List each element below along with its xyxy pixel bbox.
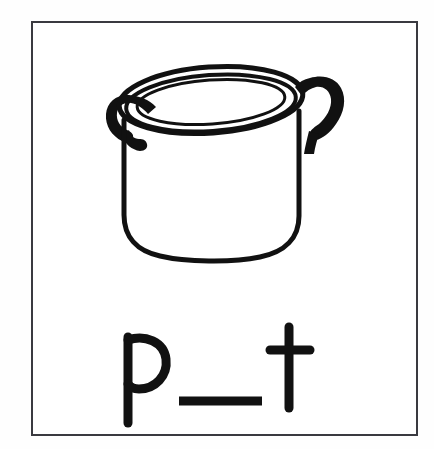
- card-frame: p ___ t: [31, 21, 418, 436]
- letter-t: [270, 327, 310, 408]
- worksheet-card: p ___ t: [0, 0, 434, 449]
- word-prompt: p ___ t: [33, 293, 420, 436]
- pot-illustration-svg: [33, 23, 420, 293]
- pot-illustration: [33, 23, 420, 293]
- letter-p: [128, 337, 166, 423]
- word-prompt-svg: [33, 293, 420, 436]
